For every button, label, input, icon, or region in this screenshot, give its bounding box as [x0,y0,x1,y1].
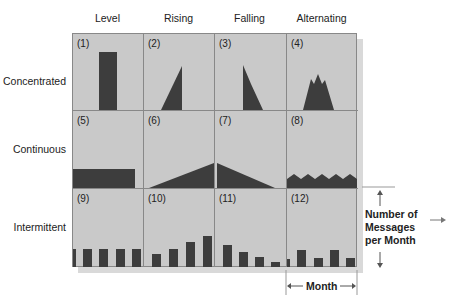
y-axis-label: Number of Messages per Month [365,208,418,247]
dimension-arrows [0,0,466,306]
y-axis-label-line: per Month [365,234,418,247]
y-axis-label-line: Number of [365,208,418,221]
x-axis-label: Month [306,280,338,293]
y-axis-label-line: Messages [365,221,418,234]
